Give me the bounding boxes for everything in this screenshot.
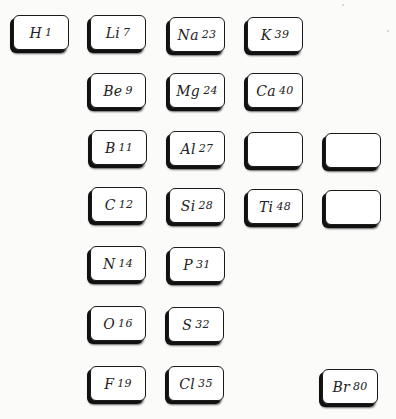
element-symbol: H (30, 25, 43, 41)
element-symbol: Ti (259, 199, 273, 215)
element-weight: 27 (199, 142, 214, 155)
element-cell-be: Be9 (90, 73, 146, 108)
element-weight: 32 (195, 318, 210, 331)
element-symbol: Na (178, 27, 199, 43)
element-cell-empty (247, 132, 303, 167)
element-cell-li: Li7 (90, 15, 146, 50)
element-symbol: Al (181, 141, 196, 157)
element-weight: 11 (118, 141, 133, 154)
element-cell-b: B11 (91, 130, 147, 165)
element-cell-na: Na23 (169, 17, 225, 52)
element-cell-br: Br80 (322, 369, 378, 404)
element-weight: 7 (123, 26, 130, 39)
element-symbol: Ca (256, 83, 276, 99)
element-symbol: Br (332, 379, 350, 395)
element-weight: 48 (276, 200, 291, 213)
element-cell-empty (325, 190, 381, 225)
element-symbol: Cl (179, 376, 195, 392)
element-weight: 31 (196, 258, 211, 271)
element-weight: 12 (119, 198, 134, 211)
element-cell-empty (325, 133, 381, 168)
element-cell-mg: Mg24 (169, 73, 225, 108)
element-cell-c: C12 (91, 187, 147, 222)
element-symbol: P (183, 257, 193, 273)
element-symbol: O (103, 316, 115, 332)
element-cell-cl: Cl35 (168, 366, 224, 401)
element-weight: 35 (198, 377, 213, 390)
element-symbol: Si (181, 198, 196, 214)
element-cell-k: K39 (247, 17, 303, 52)
element-symbol: Mg (176, 83, 200, 99)
element-cell-al: Al27 (169, 131, 225, 166)
element-cell-h: H1 (13, 15, 69, 50)
element-weight: 80 (353, 380, 368, 393)
element-cell-si: Si28 (169, 188, 225, 223)
element-cell-o: O16 (90, 306, 146, 341)
element-cell-ca: Ca40 (247, 73, 303, 108)
paper-speck (387, 30, 389, 32)
element-symbol: N (103, 256, 116, 272)
element-weight: 40 (279, 84, 294, 97)
element-cell-p: P31 (169, 247, 225, 282)
element-cell-ti: Ti48 (247, 189, 303, 224)
element-cell-f: F19 (90, 366, 146, 401)
element-symbol: Be (103, 83, 122, 99)
element-cell-n: N14 (90, 246, 146, 281)
element-weight: 1 (45, 26, 52, 39)
element-symbol: S (182, 317, 192, 333)
element-weight: 14 (118, 257, 133, 270)
element-weight: 28 (199, 199, 214, 212)
element-cell-s: S32 (168, 307, 224, 342)
element-symbol: F (104, 376, 114, 392)
element-symbol: B (105, 140, 116, 156)
element-weight: 23 (202, 28, 217, 41)
element-weight: 19 (117, 377, 132, 390)
element-weight: 16 (118, 317, 133, 330)
element-symbol: K (261, 27, 272, 43)
element-weight: 9 (125, 84, 132, 97)
element-symbol: Li (106, 25, 120, 41)
element-weight: 39 (275, 28, 290, 41)
element-symbol: C (105, 197, 116, 213)
element-weight: 24 (203, 84, 218, 97)
paper-speck (342, 4, 344, 6)
